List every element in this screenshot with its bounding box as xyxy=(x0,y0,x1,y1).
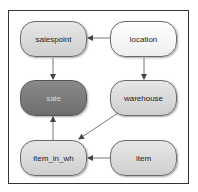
node-label: location xyxy=(130,35,158,44)
node-item_in_wh[interactable]: item_in_wh xyxy=(20,140,87,176)
node-salespoint[interactable]: salespoint xyxy=(20,21,87,57)
node-warehouse[interactable]: warehouse xyxy=(110,80,177,116)
node-label: salespoint xyxy=(35,35,71,44)
node-location[interactable]: location xyxy=(110,21,177,57)
node-sale[interactable]: sale xyxy=(20,80,87,116)
node-label: item xyxy=(136,154,151,163)
edge-warehouse-item_in_wh xyxy=(79,113,118,139)
node-label: item_in_wh xyxy=(33,154,73,163)
node-item[interactable]: item xyxy=(110,140,177,176)
node-label: sale xyxy=(46,94,61,103)
node-label: warehouse xyxy=(124,94,163,103)
